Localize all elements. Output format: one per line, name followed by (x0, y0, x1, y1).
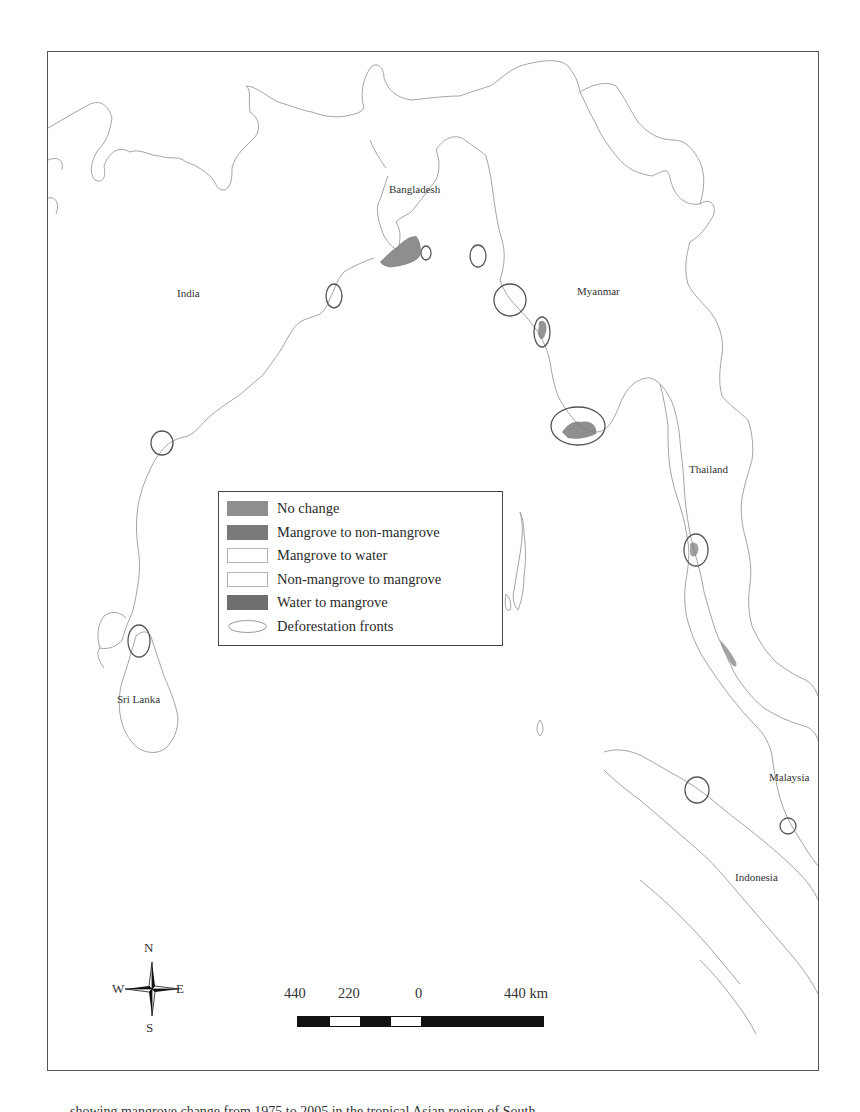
legend-label: Non-mangrove to mangrove (277, 571, 441, 588)
legend-item-non-mangrove-to-mangrove: Non-mangrove to mangrove (227, 568, 502, 592)
ellipse-icon (227, 619, 268, 634)
scale-label: 440 (284, 985, 306, 1002)
country-label-malaysia: Malaysia (769, 771, 809, 783)
legend-swatch (227, 525, 268, 540)
legend-item-deforestation-fronts: Deforestation fronts (227, 615, 502, 639)
legend-item-mangrove-to-non-mangrove: Mangrove to non-mangrove (227, 521, 502, 545)
country-label-thailand: Thailand (689, 463, 728, 475)
compass-south-label: S (146, 1020, 153, 1036)
legend-swatch (227, 572, 268, 587)
legend-swatch (227, 501, 268, 516)
deforestation-front-ellipse (128, 625, 150, 657)
country-label-bangladesh: Bangladesh (389, 183, 440, 195)
deforestation-front-ellipse (470, 245, 486, 267)
deforestation-front-ellipse (780, 818, 796, 834)
deforestation-front-ellipse (685, 777, 709, 803)
scale-label: 440 km (504, 985, 548, 1002)
legend-swatch (227, 548, 268, 563)
legend-label: Deforestation fronts (277, 618, 393, 635)
deforestation-front-ellipse (421, 246, 431, 260)
compass-star-icon (122, 956, 182, 1020)
country-label-myanmar: Myanmar (577, 285, 620, 297)
legend-label: Water to mangrove (277, 594, 388, 611)
deforestation-front-ellipse (494, 284, 526, 316)
legend-item-water-to-mangrove: Water to mangrove (227, 591, 502, 615)
figure-caption-cropped: showing mangrove change from 1975 to 200… (70, 1104, 830, 1112)
legend-label: No change (277, 500, 339, 517)
country-label-sri-lanka: Sri Lanka (117, 693, 160, 705)
scale-segment (391, 1017, 421, 1026)
north-arrow-compass: N W E S (112, 940, 192, 1040)
legend-label: Mangrove to water (277, 547, 387, 564)
scale-segment (421, 1017, 543, 1026)
legend-item-no-change: No change (227, 497, 502, 521)
country-label-india: India (177, 287, 200, 299)
scale-segment (330, 1017, 360, 1026)
country-label-indonesia: Indonesia (735, 871, 778, 883)
legend-item-mangrove-to-water: Mangrove to water (227, 544, 502, 568)
map-legend: No change Mangrove to non-mangrove Mangr… (218, 491, 503, 646)
scale-bar-segments (297, 1016, 544, 1027)
scale-bar: 440 220 0 440 km (280, 985, 550, 1005)
legend-label: Mangrove to non-mangrove (277, 524, 440, 541)
deforestation-front-ellipse (326, 284, 342, 308)
scale-segment (298, 1017, 330, 1026)
scale-segment (360, 1017, 391, 1026)
scale-label: 0 (415, 985, 422, 1002)
compass-north-label: N (144, 940, 153, 956)
legend-swatch (227, 595, 268, 610)
scale-label: 220 (338, 985, 360, 1002)
